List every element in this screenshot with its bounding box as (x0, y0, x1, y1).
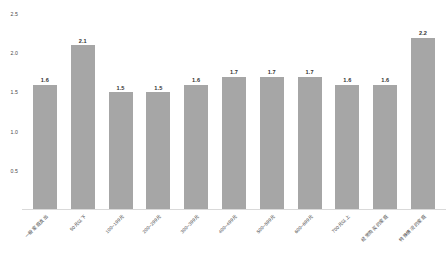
x-label-slot: 50元以下 (64, 211, 102, 258)
bar-series: 1.62.11.51.51.61.71.71.71.61.62.2 (22, 14, 446, 210)
bar[interactable]: 1.6 (373, 85, 397, 210)
bar-value-label: 1.7 (230, 69, 238, 75)
bar-group: 1.7 (253, 14, 291, 210)
y-tick-label: 1.5 (10, 89, 18, 95)
x-label-slot: 700元以上 (329, 211, 367, 258)
bar-value-label: 1.6 (343, 77, 351, 83)
bar[interactable]: 2.2 (411, 38, 435, 210)
bar[interactable]: 1.5 (146, 92, 170, 210)
x-tick-label: 300~399元 (179, 213, 200, 234)
x-label-slot: 300~399元 (177, 211, 215, 258)
bar-value-label: 1.7 (268, 69, 276, 75)
bar-value-label: 1.6 (381, 77, 389, 83)
bar-group: 1.6 (366, 14, 404, 210)
x-tick-label: 500~599元 (255, 213, 276, 234)
bar-value-label: 1.6 (192, 77, 200, 83)
bar-group: 1.7 (215, 14, 253, 210)
bar-value-label: 2.2 (419, 30, 427, 36)
x-axis-labels: 一般家庭支出50元以下100~199元200~299元300~399元400~4… (22, 211, 446, 258)
x-tick-label: 200~299元 (141, 213, 162, 234)
bar[interactable]: 1.7 (222, 77, 246, 210)
bar[interactable]: 1.5 (109, 92, 133, 210)
y-tick-label: 2.5 (10, 11, 18, 17)
bar[interactable]: 1.6 (335, 85, 359, 210)
x-label-slot: 经常购买的家庭 (366, 211, 404, 258)
y-tick-label: 2.0 (10, 50, 18, 56)
x-tick-label: 50元以下 (68, 213, 87, 232)
bar-value-label: 1.5 (116, 85, 124, 91)
bar-group: 1.5 (102, 14, 140, 210)
bar-group: 1.6 (329, 14, 367, 210)
bar-value-label: 1.5 (154, 85, 162, 91)
x-axis-line (22, 209, 446, 210)
bar[interactable]: 2.1 (71, 45, 95, 210)
plot-area: 2.5 2.0 1.5 1.0 0.5 1.62.11.51.51.61.71.… (22, 14, 446, 210)
bar[interactable]: 1.6 (33, 85, 57, 210)
x-tick-label: 700元以上 (331, 213, 352, 234)
bar-group: 1.5 (139, 14, 177, 210)
x-label-slot: 100~199元 (102, 211, 140, 258)
bar-group: 2.2 (404, 14, 442, 210)
bar-group: 2.1 (64, 14, 102, 210)
x-label-slot: 400~499元 (215, 211, 253, 258)
y-tick-label: 1.0 (10, 129, 18, 135)
bar-group: 1.6 (177, 14, 215, 210)
x-label-slot: 200~299元 (139, 211, 177, 258)
x-label-slot: 特殊情况的家庭 (404, 211, 442, 258)
bar-value-label: 1.6 (41, 77, 49, 83)
bar[interactable]: 1.6 (184, 85, 208, 210)
bar-chart: 2.5 2.0 1.5 1.0 0.5 1.62.11.51.51.61.71.… (0, 0, 448, 258)
x-tick-label: 400~499元 (217, 213, 238, 234)
x-label-slot: 600~699元 (291, 211, 329, 258)
y-tick-label: 0.5 (10, 168, 18, 174)
x-tick-label: 600~699元 (292, 213, 313, 234)
bar-group: 1.7 (291, 14, 329, 210)
bar-group: 1.6 (26, 14, 64, 210)
bar[interactable]: 1.7 (298, 77, 322, 210)
x-label-slot: 一般家庭支出 (26, 211, 64, 258)
bar-value-label: 1.7 (306, 69, 314, 75)
x-tick-label: 一般家庭支出 (23, 213, 49, 239)
bar-value-label: 2.1 (79, 38, 87, 44)
x-label-slot: 500~599元 (253, 211, 291, 258)
x-tick-label: 100~199元 (103, 213, 124, 234)
bar[interactable]: 1.7 (260, 77, 284, 210)
